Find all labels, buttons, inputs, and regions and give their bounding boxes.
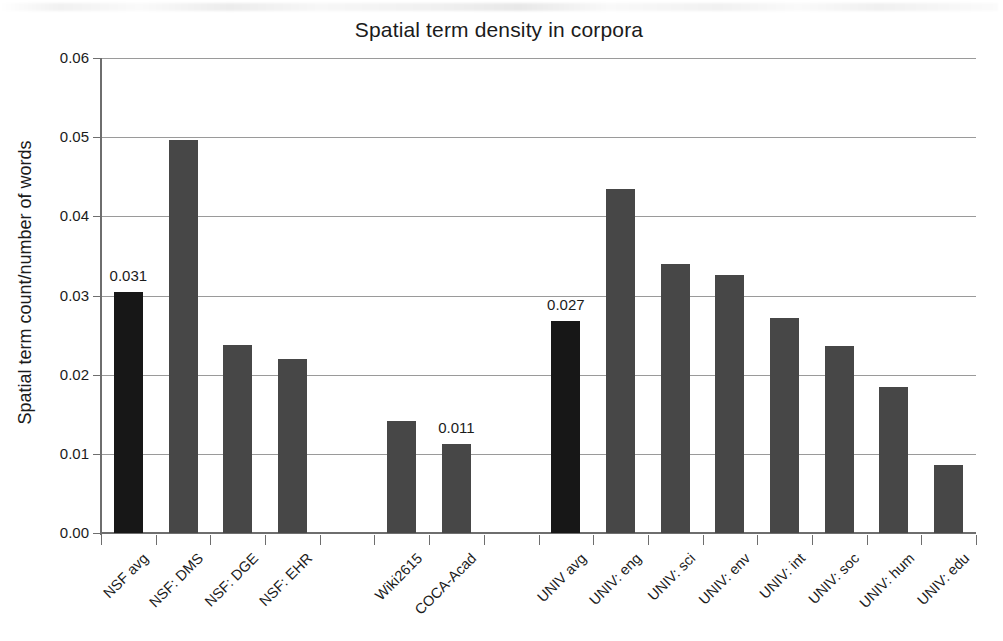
- x-tick-mark: [484, 535, 485, 545]
- y-axis-tick-labels: 0.000.010.020.030.040.050.06: [31, 0, 89, 641]
- x-tick-mark: [921, 535, 922, 545]
- x-tick-mark: [812, 535, 813, 545]
- x-tick-mark: [210, 535, 211, 545]
- bar: [551, 321, 580, 533]
- y-tick-mark: [93, 137, 102, 138]
- bar: [387, 421, 416, 533]
- x-tick-mark: [593, 535, 594, 545]
- bar: [715, 275, 744, 533]
- y-tick-mark: [93, 216, 102, 217]
- x-tick-label-text: UNIV: env: [696, 550, 754, 608]
- y-tick-label: 0.06: [35, 49, 89, 66]
- x-tick-mark: [648, 535, 649, 545]
- y-tick-label: 0.02: [35, 366, 89, 383]
- x-tick-mark: [101, 535, 102, 545]
- bar-value-label: 0.031: [98, 267, 158, 284]
- bar: [169, 140, 198, 533]
- x-tick-mark: [703, 535, 704, 545]
- y-tick-label: 0.00: [35, 524, 89, 541]
- y-tick-label: 0.04: [35, 207, 89, 224]
- y-tick-label: 0.03: [35, 287, 89, 304]
- bar: [934, 465, 963, 533]
- bar: [825, 346, 854, 533]
- bar-value-label: 0.011: [426, 419, 486, 436]
- x-tick-label-text: UNIV: edu: [914, 550, 972, 608]
- bar: [223, 345, 252, 533]
- x-tick-label-text: UNIV avg: [534, 550, 589, 605]
- x-tick-label-text: NSF: DMS: [146, 550, 206, 610]
- bar-value-label: 0.027: [536, 296, 596, 313]
- bar: [879, 387, 908, 533]
- gridline: [101, 216, 976, 217]
- bar: [661, 264, 690, 533]
- x-tick-label-text: COCA-Acad: [412, 550, 480, 618]
- y-tick-mark: [93, 454, 102, 455]
- x-tick-mark: [757, 535, 758, 545]
- y-tick-mark: [93, 533, 102, 534]
- x-tick-mark: [539, 535, 540, 545]
- chart-title: Spatial term density in corpora: [0, 18, 998, 42]
- bar: [770, 318, 799, 533]
- x-tick-mark: [156, 535, 157, 545]
- bar: [278, 359, 307, 533]
- x-tick-mark: [320, 535, 321, 545]
- x-tick-label-text: NSF: DGE: [201, 550, 261, 610]
- x-tick-label-text: NSF: EHR: [257, 550, 316, 609]
- x-tick-label-text: UNIV: soc: [806, 550, 863, 607]
- x-tick-mark: [374, 535, 375, 545]
- gridline: [101, 137, 976, 138]
- x-tick-label-text: Wiki2615: [372, 550, 425, 603]
- x-tick-label-text: UNIV: eng: [586, 550, 644, 608]
- y-tick-mark: [93, 375, 102, 376]
- scan-artifact-band: [0, 3, 998, 11]
- bar: [606, 189, 635, 533]
- x-tick-label-text: UNIV: int: [756, 550, 808, 602]
- x-tick-mark: [867, 535, 868, 545]
- x-tick-mark: [976, 535, 977, 545]
- x-tick-mark: [265, 535, 266, 545]
- x-tick-mark: [429, 535, 430, 545]
- gridline: [101, 58, 976, 59]
- x-tick-label-text: UNIV: hum: [856, 550, 917, 611]
- bar: [114, 292, 143, 533]
- y-tick-label: 0.01: [35, 445, 89, 462]
- y-tick-mark: [93, 296, 102, 297]
- bar: [442, 444, 471, 533]
- x-tick-label-text: UNIV: sci: [645, 550, 699, 604]
- y-tick-mark: [93, 58, 102, 59]
- x-tick-label-text: NSF avg: [100, 550, 151, 601]
- y-tick-label: 0.05: [35, 128, 89, 145]
